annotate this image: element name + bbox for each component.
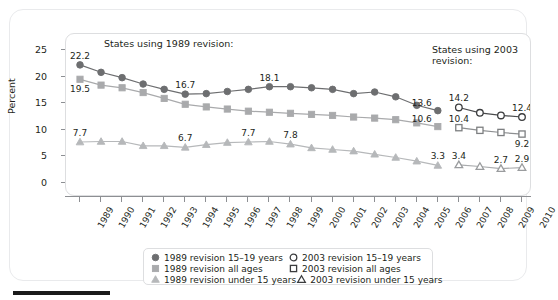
data-point	[290, 254, 297, 261]
point-value-label: 6.7	[178, 133, 192, 143]
data-point	[392, 94, 399, 101]
legend-item[interactable]: 2003 revision under 15 years	[296, 274, 442, 285]
x-tick	[289, 197, 290, 202]
x-tick-label: 2004	[411, 205, 431, 230]
data-point	[455, 161, 463, 168]
point-value-label: 7.8	[283, 130, 297, 140]
x-tick-label: 1994	[201, 205, 221, 230]
legend-row: 1989 revision under 15 years2003 revisio…	[150, 274, 426, 285]
legend-label: 1989 revision under 15 years	[164, 275, 296, 285]
data-point	[287, 110, 293, 116]
x-tick-label: 1999	[306, 205, 326, 230]
data-point	[266, 109, 272, 115]
note-2003-revision: States using 2003 revision:	[432, 44, 518, 66]
data-point	[329, 86, 336, 93]
data-point	[351, 114, 357, 120]
legend-label: 2003 revision all ages	[302, 264, 401, 274]
x-tick-label: 2010	[537, 205, 557, 230]
x-tick-label: 2001	[348, 205, 368, 230]
y-axis-labels: 0510152025	[10, 10, 58, 196]
chart-legend: 1989 revision 15–19 years2003 revision 1…	[143, 248, 433, 285]
point-value-label: 22.2	[70, 51, 90, 61]
series-line	[459, 128, 522, 134]
data-point	[287, 83, 294, 90]
legend-item[interactable]: 1989 revision under 15 years	[150, 274, 296, 285]
x-tick	[479, 197, 480, 202]
point-value-label: 19.5	[70, 84, 90, 94]
legend-item[interactable]: 2003 revision 15–19 years	[288, 252, 426, 263]
series-line	[459, 165, 522, 169]
x-tick	[374, 197, 375, 202]
x-tick	[353, 197, 354, 202]
x-tick-label: 2009	[516, 205, 536, 230]
legend-item[interactable]: 1989 revision all ages	[150, 263, 288, 274]
data-point	[290, 265, 296, 271]
data-point	[308, 84, 315, 91]
data-point	[266, 83, 273, 90]
legend-item[interactable]: 1989 revision 15–19 years	[150, 252, 288, 263]
plot-area: 22.216.718.113.619.510.67.76.77.77.83.31…	[65, 33, 531, 196]
x-axis-labels: 1989199019911992199319941995199619971998…	[10, 203, 550, 249]
point-value-label: 9.2	[515, 139, 529, 149]
point-value-label: 3.3	[431, 151, 445, 161]
data-point	[224, 106, 230, 112]
y-tick-label: 5	[41, 150, 47, 161]
data-point	[119, 85, 125, 91]
x-tick-label: 1996	[243, 205, 263, 230]
series-line	[80, 79, 438, 126]
data-point	[477, 127, 483, 133]
legend-row: 1989 revision 15–19 years2003 revision 1…	[150, 252, 426, 263]
data-point	[456, 104, 463, 111]
point-value-label: 10.6	[412, 114, 432, 124]
data-point	[498, 112, 505, 119]
y-tick-label: 15	[35, 97, 47, 108]
x-tick	[226, 197, 227, 202]
data-point	[152, 265, 158, 271]
legend-label: 1989 revision 15–19 years	[164, 253, 283, 263]
data-point	[393, 117, 399, 123]
x-tick	[79, 197, 80, 202]
point-value-label: 2.9	[515, 154, 529, 164]
x-tick-label: 2006	[453, 205, 473, 230]
x-tick	[163, 197, 164, 202]
data-point	[519, 131, 525, 137]
x-tick-label: 2007	[474, 205, 494, 230]
data-point	[518, 164, 526, 171]
data-point	[372, 115, 378, 121]
data-point	[203, 90, 210, 97]
data-point	[245, 86, 252, 93]
x-tick	[142, 197, 143, 202]
legend-item[interactable]: 2003 revision all ages	[288, 263, 426, 274]
x-tick	[395, 197, 396, 202]
x-tick-label: 2000	[327, 205, 347, 230]
x-tick-label: 1993	[180, 205, 200, 230]
data-point	[329, 112, 335, 118]
data-point	[203, 104, 209, 110]
data-point	[308, 111, 314, 117]
data-point	[140, 81, 147, 88]
point-value-label: 14.2	[449, 93, 469, 103]
point-value-label: 12.4	[512, 103, 531, 113]
legend-label: 2003 revision 15–19 years	[302, 253, 421, 263]
x-tick-label: 1989	[95, 205, 115, 230]
x-tick-label: 1997	[264, 205, 284, 230]
x-tick-label: 1990	[117, 205, 137, 230]
x-tick-label: 2003	[390, 205, 410, 230]
legend-marker-open-square-icon	[288, 263, 299, 274]
data-point	[140, 89, 146, 95]
note-1989-revision: States using 1989 revision:	[104, 38, 233, 49]
data-point	[519, 114, 526, 121]
x-tick	[521, 197, 522, 202]
x-tick	[121, 197, 122, 202]
data-point	[245, 108, 251, 114]
data-point	[477, 109, 484, 116]
x-tick-label: 1992	[159, 205, 179, 230]
data-point	[350, 90, 357, 97]
point-value-label: 3.4	[452, 151, 466, 161]
y-tick-label: 20	[35, 70, 47, 81]
data-point	[152, 254, 159, 261]
x-tick	[458, 197, 459, 202]
data-point	[119, 74, 126, 81]
y-axis	[58, 33, 65, 196]
y-tick-label: 0	[41, 177, 47, 188]
